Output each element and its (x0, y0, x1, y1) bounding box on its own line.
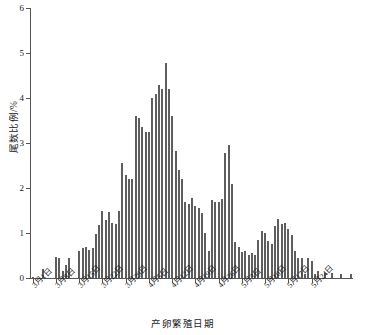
y-tick-5 (26, 53, 30, 54)
bar (201, 213, 203, 278)
bar (128, 179, 130, 278)
y-tick-label-1: 1 (0, 229, 24, 238)
bar (138, 118, 140, 278)
bar (175, 151, 177, 278)
bar (165, 63, 167, 278)
bar (125, 175, 127, 279)
bar (101, 211, 103, 279)
bar (145, 132, 147, 278)
bar (161, 89, 163, 278)
y-tick-3 (26, 143, 30, 144)
y-tick-4 (26, 98, 30, 99)
y-tick-label-5: 5 (0, 49, 24, 58)
bar (198, 208, 200, 278)
bar (241, 252, 243, 278)
bar (105, 220, 107, 279)
bar (108, 212, 110, 278)
bar (244, 251, 246, 278)
bar (181, 179, 183, 278)
bar (231, 184, 233, 278)
bar (267, 241, 269, 278)
bar (55, 257, 57, 278)
y-tick-6 (26, 8, 30, 9)
y-tick-1 (26, 233, 30, 234)
y-tick-label-3: 3 (0, 139, 24, 148)
bar (158, 85, 160, 279)
bar (151, 98, 153, 278)
y-tick-2 (26, 188, 30, 189)
bar-series (31, 8, 353, 278)
y-tick-0 (26, 278, 30, 279)
bar (194, 206, 196, 278)
bar (78, 251, 80, 278)
y-tick-label-4: 4 (0, 94, 24, 103)
bar (178, 170, 180, 278)
bar (135, 116, 137, 278)
bar (291, 235, 293, 278)
y-tick-label-2: 2 (0, 184, 24, 193)
bar (131, 179, 133, 278)
bar (340, 274, 342, 279)
y-axis-title: 尾数比例/% (6, 72, 20, 182)
y-tick-label-6: 6 (0, 4, 24, 13)
x-axis-title: 产卵繁殖日期 (0, 316, 365, 330)
bar (350, 274, 352, 278)
bar (155, 94, 157, 279)
bar (218, 202, 220, 278)
bar (168, 89, 170, 278)
bar (171, 116, 173, 278)
bar (221, 199, 223, 278)
y-tick-label-0: 0 (0, 274, 24, 283)
bar (141, 127, 143, 278)
bar (228, 145, 230, 278)
bar-chart-figure: 尾数比例/% 0123456 3月1日3月8日3月15日3月22日3月29日4月… (0, 0, 365, 335)
bar (32, 277, 34, 278)
bar (82, 248, 84, 278)
bar (264, 233, 266, 278)
bar (148, 132, 150, 278)
bar (121, 163, 123, 278)
bar (224, 153, 226, 278)
